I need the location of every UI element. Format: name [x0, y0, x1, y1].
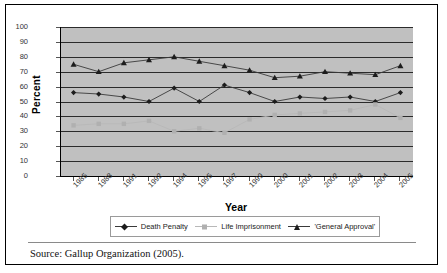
data-point-marker — [247, 90, 252, 95]
y-tick-label: 90 — [2, 38, 28, 45]
y-tick-mark — [56, 102, 60, 103]
y-tick-label: 50 — [2, 98, 28, 105]
y-tick-mark — [56, 176, 60, 177]
y-tick-label: 10 — [2, 157, 28, 164]
y-tick-mark — [56, 57, 60, 58]
y-tick-label: 0 — [2, 172, 28, 179]
figure-container: Percent Year Death Penalty Life Imprison… — [5, 4, 438, 265]
data-point-marker — [222, 83, 227, 88]
y-tick-mark — [56, 116, 60, 117]
y-tick-label: 100 — [2, 23, 28, 30]
square-marker-icon — [202, 224, 207, 229]
triangle-marker-icon — [294, 224, 300, 230]
data-point-marker — [323, 110, 327, 114]
y-axis-title: Percent — [31, 55, 42, 135]
data-point-marker — [398, 90, 403, 95]
data-point-marker — [247, 117, 251, 121]
y-tick-label: 30 — [2, 127, 28, 134]
legend-item-general-approval: 'General Approval' — [288, 222, 375, 231]
data-point-marker — [297, 94, 302, 99]
data-point-marker — [272, 99, 277, 104]
data-point-marker — [171, 54, 177, 59]
chart-legend: Death Penalty Life Imprisonment 'General… — [110, 216, 380, 237]
source-divider — [28, 242, 416, 243]
data-point-marker — [197, 99, 202, 104]
y-tick-label: 70 — [2, 68, 28, 75]
data-point-marker — [146, 99, 151, 104]
legend-line-life-imprisonment — [195, 226, 217, 227]
data-point-marker — [273, 113, 277, 117]
series-layer — [61, 27, 413, 176]
x-axis-title: Year — [60, 201, 412, 213]
plot-area — [60, 27, 413, 177]
data-point-marker — [121, 94, 126, 99]
data-point-marker — [122, 122, 126, 126]
y-tick-mark — [56, 27, 60, 28]
data-point-marker — [398, 116, 402, 120]
y-tick-mark — [56, 87, 60, 88]
data-point-marker — [222, 131, 226, 135]
legend-line-death-penalty — [115, 226, 137, 227]
y-tick-label: 80 — [2, 53, 28, 60]
data-point-marker — [172, 129, 176, 133]
y-tick-label: 40 — [2, 112, 28, 119]
data-point-marker — [322, 96, 327, 101]
legend-label-general-approval: 'General Approval' — [312, 222, 375, 231]
y-tick-label: 20 — [2, 142, 28, 149]
series-line-death-penalty — [74, 85, 401, 101]
data-point-marker — [96, 91, 101, 96]
chart-area: Percent Year Death Penalty Life Imprison… — [12, 11, 432, 239]
data-point-marker — [298, 111, 302, 115]
legend-line-general-approval — [288, 226, 310, 227]
data-point-marker — [71, 61, 77, 66]
legend-item-death-penalty: Death Penalty — [115, 222, 188, 231]
data-point-marker — [71, 123, 75, 127]
y-tick-label: 60 — [2, 83, 28, 90]
data-point-marker — [97, 122, 101, 126]
data-point-marker — [348, 108, 352, 112]
source-note: Source: Gallup Organization (2005). — [30, 248, 184, 259]
y-tick-mark — [56, 72, 60, 73]
data-point-marker — [71, 90, 76, 95]
data-point-marker — [373, 102, 377, 106]
legend-label-life-imprisonment: Life Imprisonment — [219, 222, 281, 231]
data-point-marker — [348, 94, 353, 99]
diamond-marker-icon — [121, 223, 128, 230]
y-tick-mark — [56, 131, 60, 132]
y-tick-mark — [56, 42, 60, 43]
legend-label-death-penalty: Death Penalty — [139, 222, 188, 231]
y-tick-mark — [56, 161, 60, 162]
data-point-marker — [397, 63, 403, 68]
data-point-marker — [172, 85, 177, 90]
data-point-marker — [147, 119, 151, 123]
data-point-marker — [197, 126, 201, 130]
legend-item-life-imprisonment: Life Imprisonment — [195, 222, 281, 231]
y-tick-mark — [56, 146, 60, 147]
